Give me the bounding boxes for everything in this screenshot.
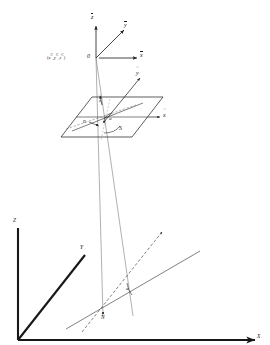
x-axis-label: X bbox=[257, 334, 260, 340]
ground-line bbox=[66, 251, 200, 329]
z-tilde-axis-label: z bbox=[99, 98, 101, 103]
image-plane-quad bbox=[61, 96, 163, 140]
y-bar-axis-label: y bbox=[124, 22, 127, 28]
y-bar-axis-line bbox=[96, 30, 124, 58]
y-axis-line bbox=[18, 255, 85, 340]
image-point-s-label: S bbox=[119, 125, 122, 131]
plane-center-marker bbox=[103, 121, 105, 123]
z-bar-axis-label: z bbox=[91, 14, 93, 20]
z-axis-label: Z bbox=[13, 218, 16, 224]
camera-position-label: (xC,yC,zC) bbox=[47, 54, 65, 60]
world-angle-label: α bbox=[126, 286, 129, 291]
world-point-N-label: N bbox=[101, 315, 105, 321]
x-bar-axis-label: x bbox=[140, 52, 143, 58]
y-tilde-axis-label: y bbox=[136, 70, 139, 76]
x-tilde-axis-label: x bbox=[163, 112, 166, 118]
camera-axes bbox=[96, 26, 137, 58]
projection-diagram bbox=[0, 0, 270, 345]
image-point-n-label: n bbox=[83, 119, 86, 125]
image-plane-angle-label: α bbox=[109, 116, 112, 121]
ground-dashed-line bbox=[82, 232, 162, 332]
camera-origin-label: 0 bbox=[87, 53, 90, 59]
world-axes bbox=[18, 228, 255, 340]
ground-trace bbox=[66, 232, 200, 332]
y-axis-label: Y bbox=[80, 245, 83, 251]
